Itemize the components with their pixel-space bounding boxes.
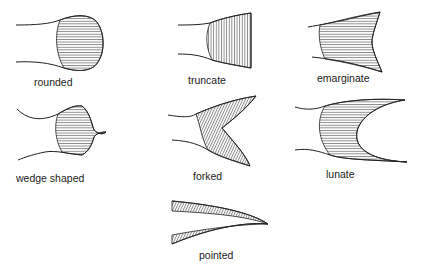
label-pointed: pointed bbox=[199, 249, 233, 261]
label-truncate: truncate bbox=[188, 74, 226, 86]
caudal-fin-diagram bbox=[0, 0, 421, 272]
wedge-shaped-tail-figure bbox=[17, 106, 106, 160]
label-lunate: lunate bbox=[326, 168, 355, 180]
label-forked: forked bbox=[193, 170, 222, 182]
truncate-tail-figure bbox=[178, 13, 251, 68]
rounded-tail-figure bbox=[16, 16, 103, 71]
forked-tail-figure bbox=[168, 96, 256, 166]
emarginate-tail-figure bbox=[308, 12, 382, 72]
pointed-tail-figure bbox=[172, 201, 268, 244]
label-emarginate: emarginate bbox=[317, 72, 370, 84]
label-rounded: rounded bbox=[34, 76, 73, 88]
label-wedge-shaped: wedge shaped bbox=[16, 172, 84, 184]
lunate-tail-figure bbox=[295, 99, 407, 162]
